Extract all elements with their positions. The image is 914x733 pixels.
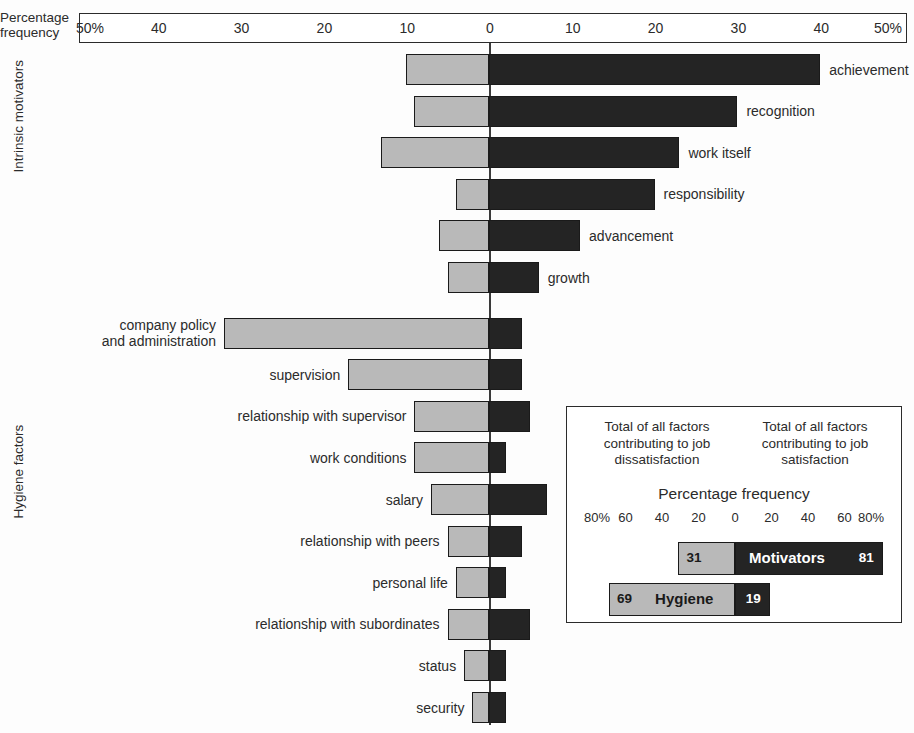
bar-label: salary — [60, 492, 423, 508]
inset-row-name: Hygiene — [655, 590, 713, 607]
bar-segment-satisfaction — [489, 526, 522, 557]
axis-caption-line1: Percentage — [0, 10, 76, 25]
inset-bar-motivators: 3181Motivators — [567, 542, 903, 575]
bar-label: security — [60, 700, 464, 716]
x-axis-tick-1: 40 — [151, 20, 167, 36]
x-axis-tick-4: 10 — [399, 20, 415, 36]
bar-segment-satisfaction — [489, 650, 506, 681]
bar-segment-satisfaction — [489, 442, 506, 473]
inset-tick-0: 80% — [584, 510, 610, 525]
inset-value-satisfaction: 81 — [859, 550, 874, 565]
inset-tick-4: 0 — [731, 510, 738, 525]
inset-tick-6: 40 — [801, 510, 815, 525]
x-axis-tick-10: 50% — [874, 20, 902, 36]
inset-value-dissatisfaction: 31 — [686, 550, 701, 565]
x-axis-tick-0: 50% — [76, 20, 104, 36]
bar-segment-satisfaction — [489, 318, 522, 349]
bar-segment-dissatisfaction — [431, 484, 489, 515]
bar-row — [0, 179, 914, 210]
bar-label: responsibility — [664, 186, 745, 202]
inset-value-dissatisfaction: 69 — [617, 591, 632, 606]
bar-label: relationship with supervisor — [60, 408, 406, 424]
bar-label: work conditions — [60, 450, 406, 466]
x-axis-tick-3: 20 — [317, 20, 333, 36]
inset-heading-dissatisfaction: Total of all factors contributing to job… — [581, 419, 733, 469]
inset-value-satisfaction: 19 — [746, 591, 761, 606]
bar-segment-satisfaction — [489, 401, 530, 432]
bar-row — [0, 220, 914, 251]
x-axis-tick-6: 10 — [565, 20, 581, 36]
bar-segment-dissatisfaction — [464, 650, 489, 681]
axis-caption-line2: frequency — [0, 25, 76, 40]
bar-segment-satisfaction — [489, 54, 820, 85]
bar-segment-satisfaction — [489, 96, 737, 127]
bar-segment-dissatisfaction — [472, 692, 489, 723]
bar-segment-dissatisfaction — [406, 54, 489, 85]
x-axis-tick-9: 40 — [813, 20, 829, 36]
inset-tick-7: 60 — [837, 510, 851, 525]
bar-segment-dissatisfaction — [414, 442, 489, 473]
x-axis-tick-7: 20 — [648, 20, 664, 36]
inset-tick-5: 20 — [764, 510, 778, 525]
bar-segment-dissatisfaction — [448, 526, 489, 557]
bar-label: relationship with subordinates — [60, 616, 440, 632]
plot-area: achievementrecognitionwork itselfrespons… — [0, 43, 914, 733]
bar-label: growth — [548, 270, 590, 286]
inset-tick-8: 80% — [858, 510, 884, 525]
bar-segment-satisfaction — [489, 262, 539, 293]
x-axis-tick-8: 30 — [731, 20, 747, 36]
bar-segment-satisfaction — [489, 179, 655, 210]
bar-label: supervision — [60, 367, 340, 383]
bar-segment-satisfaction — [489, 567, 506, 598]
bar-row — [0, 262, 914, 293]
bar-label: achievement — [829, 62, 908, 78]
bar-row — [0, 137, 914, 168]
bar-segment-dissatisfaction — [414, 96, 489, 127]
bar-segment-dissatisfaction — [439, 220, 489, 251]
chart-canvas: Percentage frequency 50%4030201001020304… — [0, 0, 914, 733]
bar-row — [0, 54, 914, 85]
inset-title: Percentage frequency — [567, 485, 901, 503]
bar-segment-satisfaction — [489, 220, 580, 251]
bar-label: status — [60, 658, 456, 674]
bar-segment-dissatisfaction — [414, 401, 489, 432]
inset-bar-hygiene: 6919Hygiene — [567, 583, 903, 616]
bar-segment-dissatisfaction — [456, 179, 489, 210]
summary-legend-box: Total of all factors contributing to job… — [566, 406, 902, 623]
inset-tick-3: 20 — [691, 510, 705, 525]
bar-label: personal life — [60, 575, 448, 591]
bar-segment-satisfaction — [489, 137, 679, 168]
inset-tick-1: 60 — [618, 510, 632, 525]
x-axis-tick-5: 0 — [486, 20, 494, 36]
bar-label: recognition — [746, 103, 815, 119]
inset-row-name: Motivators — [749, 549, 825, 566]
bar-segment-dissatisfaction — [456, 567, 489, 598]
bar-segment-dissatisfaction — [224, 318, 489, 349]
bar-segment-satisfaction — [489, 359, 522, 390]
bar-segment-dissatisfaction — [448, 262, 489, 293]
axis-caption: Percentage frequency — [0, 10, 76, 40]
inset-heading-satisfaction: Total of all factors contributing to job… — [739, 419, 891, 469]
bar-segment-dissatisfaction — [381, 137, 489, 168]
bar-segment-satisfaction — [489, 484, 547, 515]
bar-label: company policy and administration — [60, 317, 216, 349]
bar-segment-satisfaction — [489, 609, 530, 640]
bar-label: work itself — [688, 145, 750, 161]
bar-label: relationship with peers — [60, 533, 440, 549]
inset-tick-2: 40 — [655, 510, 669, 525]
bar-segment-dissatisfaction — [448, 609, 489, 640]
x-axis-tick-2: 30 — [234, 20, 250, 36]
bar-label: advancement — [589, 228, 673, 244]
bar-segment-satisfaction — [489, 692, 506, 723]
bar-segment-dissatisfaction — [348, 359, 489, 390]
x-axis-scale: 50%4030201001020304050% — [79, 13, 907, 43]
